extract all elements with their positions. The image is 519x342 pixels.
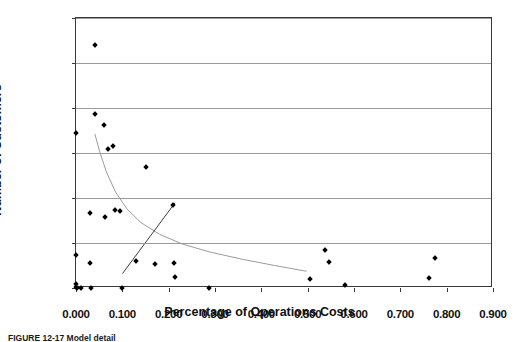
x-tick-mark: [447, 288, 448, 292]
gridline-y: [76, 108, 491, 109]
y-tick-mark: [72, 108, 76, 109]
y-axis-title: Number of Customers: [0, 84, 4, 215]
x-axis-title: Percentage of Operations Costs: [0, 305, 519, 319]
y-tick-mark: [72, 153, 76, 154]
data-point: [207, 285, 213, 291]
gridline-y: [76, 243, 491, 244]
data-point: [78, 285, 84, 291]
x-tick-mark: [169, 288, 170, 292]
gridline-y: [76, 198, 491, 199]
y-tick-mark: [72, 243, 76, 244]
data-point: [88, 285, 94, 291]
gridline-y: [76, 63, 491, 64]
y-tick-mark: [72, 198, 76, 199]
scatter-plot-area: 010,00020,00030,00040,00050,00060,0000.0…: [75, 17, 492, 287]
figure-caption: FIGURE 12-17 Model detail: [8, 333, 513, 342]
y-tick-mark: [72, 18, 76, 19]
y-tick-mark: [72, 63, 76, 64]
x-tick-mark: [261, 288, 262, 292]
x-tick-mark: [215, 288, 216, 292]
data-point: [119, 285, 125, 291]
gridline-y: [76, 18, 491, 19]
trend-line-rising-regression-line: [123, 203, 175, 274]
trend-lines-layer: [76, 18, 491, 286]
trend-line-power-decay-curve: [95, 134, 307, 271]
data-point: [342, 282, 348, 288]
figure-container: 010,00020,00030,00040,00050,00060,0000.0…: [0, 0, 519, 342]
x-tick-mark: [400, 288, 401, 292]
x-tick-mark: [308, 288, 309, 292]
x-tick-mark: [493, 288, 494, 292]
x-tick-mark: [354, 288, 355, 292]
gridline-y: [76, 153, 491, 154]
